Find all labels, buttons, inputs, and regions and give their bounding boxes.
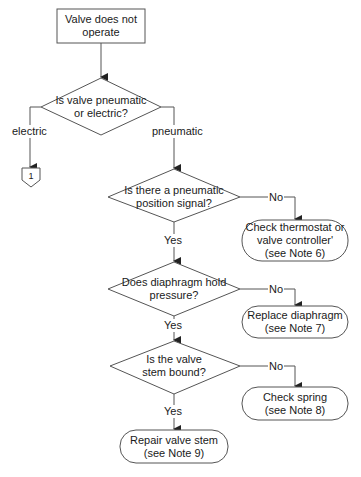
terminal-1-line-1: Check thermostat or bbox=[245, 221, 344, 234]
decision-4-line-1: Is the valve bbox=[146, 353, 202, 366]
start-line-2: operate bbox=[82, 26, 119, 39]
decision-2-text: Is there a pneumatic position signal? bbox=[118, 183, 230, 211]
electric-branch-label: electric bbox=[11, 125, 48, 138]
terminal-2-line-1: Replace diaphragm bbox=[247, 309, 342, 322]
decision-4-no-label: No bbox=[268, 360, 284, 373]
decision-1-text: Is valve pneumatic or electric? bbox=[51, 93, 151, 121]
terminal-2-line-2: (see Note 7) bbox=[265, 322, 326, 335]
decision-3-no-label: No bbox=[268, 283, 284, 296]
terminal-2-text: Replace diaphragm (see Note 7) bbox=[242, 306, 348, 338]
terminal-1-text: Check thermostat or valve controller' (s… bbox=[242, 220, 348, 261]
decision-2-no-label: No bbox=[268, 191, 284, 204]
terminal-4-line-1: Repair valve stem bbox=[130, 434, 218, 447]
terminal-3-line-1: Check spring bbox=[263, 391, 327, 404]
decision-2-line-1: Is there a pneumatic bbox=[124, 184, 224, 197]
decision-3-line-2: pressure? bbox=[150, 289, 199, 302]
terminal-3-line-2: (see Note 8) bbox=[265, 404, 326, 417]
decision-3-line-1: Does diaphragm hold bbox=[122, 276, 227, 289]
start-line-1: Valve does not bbox=[65, 13, 137, 26]
decision-3-text: Does diaphragm hold pressure? bbox=[118, 275, 230, 303]
decision-3-yes-label: Yes bbox=[163, 319, 183, 332]
pneumatic-branch-label: pneumatic bbox=[151, 125, 204, 138]
offpage-connector-label: 1 bbox=[22, 171, 40, 181]
terminal-1-line-3: (see Note 6) bbox=[265, 247, 326, 260]
start-box-text: Valve does not operate bbox=[57, 9, 145, 43]
decision-4-yes-label: Yes bbox=[163, 405, 183, 418]
terminal-4-text: Repair valve stem (see Note 9) bbox=[120, 430, 228, 463]
decision-1-line-1: Is valve pneumatic bbox=[55, 94, 146, 107]
terminal-4-line-2: (see Note 9) bbox=[144, 447, 205, 460]
decision-2-line-2: position signal? bbox=[136, 197, 212, 210]
terminal-3-text: Check spring (see Note 8) bbox=[242, 387, 348, 420]
decision-4-text: Is the valve stem bound? bbox=[124, 352, 224, 380]
decision-4-line-2: stem bound? bbox=[142, 366, 206, 379]
terminal-1-line-2: valve controller' bbox=[257, 234, 333, 247]
decision-2-yes-label: Yes bbox=[163, 234, 183, 247]
decision-1-line-2: or electric? bbox=[74, 107, 128, 120]
